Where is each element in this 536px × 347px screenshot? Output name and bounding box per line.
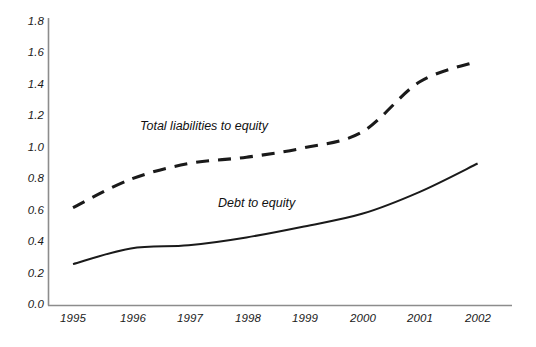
y-tick-label: 0.8 [14,172,44,184]
y-tick-label: 1.4 [14,78,44,90]
y-tick-label: 1.2 [14,109,44,121]
line-chart: 1.8 1.6 1.4 1.2 1.0 0.8 0.6 0.4 0.2 0.0 … [0,0,536,347]
y-tick-label: 0.0 [14,298,44,310]
annotation-debt-to-equity: Debt to equity [218,196,295,210]
y-tick-label: 1.6 [14,46,44,58]
x-tick-label: 2000 [340,312,386,324]
x-tick-label: 2002 [455,312,501,324]
y-tick-label: 1.8 [14,15,44,27]
y-tick-label: 0.4 [14,235,44,247]
x-tick-label: 1996 [110,312,156,324]
x-tick-label: 1998 [225,312,271,324]
x-tick-label: 1997 [167,312,213,324]
series-total-liabilities-to-equity [73,61,478,207]
x-tick-label: 2001 [397,312,443,324]
x-tick-label: 1995 [50,312,96,324]
chart-canvas [0,0,536,347]
y-tick-label: 0.6 [14,204,44,216]
x-tick-label: 1999 [282,312,328,324]
y-tick-label: 0.2 [14,267,44,279]
y-tick-label: 1.0 [14,141,44,153]
annotation-total-liabilities-to-equity: Total liabilities to equity [140,119,268,133]
